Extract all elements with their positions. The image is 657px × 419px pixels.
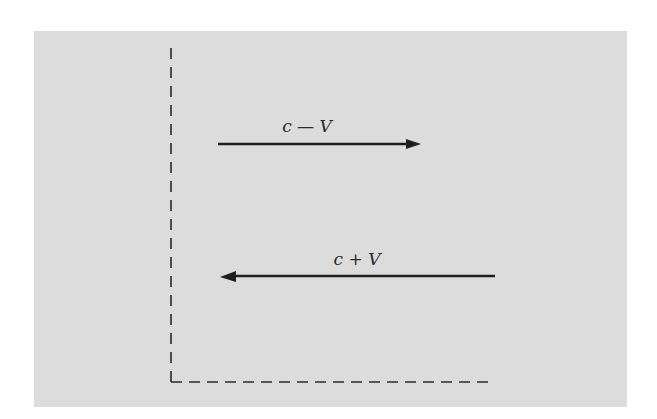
upper-arrow <box>218 139 421 149</box>
upper-arrow-label: c — V <box>282 116 333 136</box>
lower-arrow <box>220 271 495 282</box>
lower-arrow-label: c + V <box>334 249 383 269</box>
diagram-canvas: c — V c + V <box>0 0 657 419</box>
